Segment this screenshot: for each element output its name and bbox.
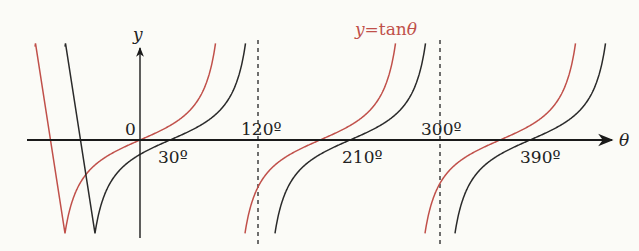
- shifted-tan-curve-branch-1: [275, 43, 426, 233]
- curves: [35, 43, 606, 233]
- tick-label-120: 120º: [241, 119, 281, 139]
- legend-tan: y=tanθ: [354, 19, 417, 39]
- legend-y: y: [354, 19, 365, 39]
- origin-label: 0: [125, 119, 136, 139]
- tick-label-210: 210º: [342, 147, 382, 167]
- tangent-graph: y θ 0 30º 120º 210º 300º 390º y=tanθ: [0, 0, 639, 251]
- tick-label-390: 390º: [520, 147, 560, 167]
- y-axis-label: y: [132, 24, 143, 44]
- x-axis-label: θ: [619, 130, 629, 150]
- tick-label-300: 300º: [421, 119, 461, 139]
- legend-fn: tan: [379, 19, 407, 39]
- legend-theta: θ: [407, 19, 417, 39]
- shifted-tan-curve-branch-2: [455, 43, 606, 233]
- legend-equals: =: [365, 19, 379, 39]
- tick-label-30: 30º: [158, 147, 188, 167]
- shifted-tan-curve-branch-0: [65, 43, 246, 233]
